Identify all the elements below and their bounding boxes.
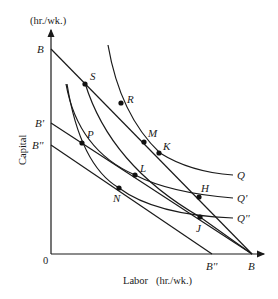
label-S: S	[90, 70, 96, 82]
label-B-y: B	[37, 43, 44, 55]
label-H: H	[200, 182, 210, 194]
label-P: P	[86, 128, 94, 140]
budget-line-B-double-prime	[51, 145, 212, 254]
isoquant-Q	[108, 45, 233, 175]
label-M: M	[147, 127, 158, 139]
label-Q-double-prime: Q''	[237, 212, 250, 224]
budget-line-B	[51, 49, 252, 254]
label-Q: Q	[237, 169, 245, 181]
label-K: K	[162, 140, 171, 152]
point-R	[118, 100, 123, 105]
point-J	[197, 214, 202, 219]
label-L: L	[139, 162, 146, 174]
label-Q-prime: Q'	[237, 192, 248, 204]
point-L	[132, 172, 137, 177]
point-K	[156, 150, 161, 155]
label-B-x: B	[248, 260, 255, 272]
label-B-double-prime-y: B''	[32, 139, 44, 151]
point-S	[82, 81, 87, 86]
origin-label: 0	[43, 255, 48, 266]
isoquant-Q-double-prime-curve	[67, 84, 233, 218]
point-H	[196, 194, 201, 199]
isoquant-diagram: S R M K P L N H J Q Q' Q'' B B' B'' B'' …	[0, 0, 278, 299]
point-N	[116, 185, 121, 190]
y-axis-unit: (hr./wk.)	[30, 15, 67, 27]
label-R: R	[126, 93, 134, 105]
label-B-prime-y: B'	[35, 117, 45, 129]
y-axis-label: Capital	[17, 135, 28, 165]
label-N: N	[112, 192, 121, 204]
label-B-double-prime-x: B''	[206, 260, 218, 272]
x-axis-label: Labor (hr./wk.)	[123, 275, 193, 287]
point-M	[141, 139, 146, 144]
point-P	[79, 140, 84, 145]
label-J: J	[196, 222, 202, 234]
